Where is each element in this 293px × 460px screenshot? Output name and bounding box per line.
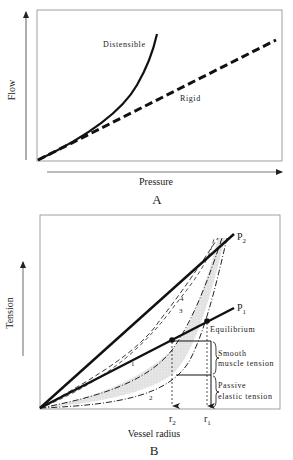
rigid-label: Rigid [180,94,201,103]
panel-a-letter: A [152,192,162,207]
passive-elastic-label-1: Passive [218,381,246,390]
panel-a: Distensible Rigid Flow Pressure A [6,10,282,207]
curve-1-label: 1 [131,360,135,368]
flow-axis-label: Flow [6,79,17,100]
pressure-axis-label: Pressure [139,176,173,187]
r2-label: r2 [169,413,176,427]
vessel-radius-axis-label: Vessel radius [128,428,181,439]
panel-b-letter: B [150,443,159,458]
equilibrium-label: Equilibrium [210,325,255,334]
figure: Distensible Rigid Flow Pressure A [0,0,293,460]
curve-3-label: 3 [179,307,183,315]
r1-label: r1 [204,413,211,427]
equilibrium-point-r1 [204,318,210,324]
smooth-muscle-brace [213,342,219,374]
smooth-muscle-label-1: Smooth [218,349,247,358]
passive-elastic-label-2: elastic tension [218,392,273,401]
equilibrium-point-r2 [169,337,175,343]
p1-line [40,308,234,408]
panel-a-frame [37,10,282,161]
curve-2-label: 2 [149,394,153,402]
smooth-muscle-label-2: muscle tension [218,359,274,368]
curve-4-label: 4 [180,295,184,303]
tension-axis-label: Tension [4,297,15,329]
p2-label: P2 [237,231,247,245]
distensible-label: Distensible [103,40,146,49]
p1-label: P1 [237,302,247,316]
distensible-curve [38,34,157,160]
panel-b: P2 P1 1 2 3 4 Equilibrium Smooth muscle … [4,215,280,458]
